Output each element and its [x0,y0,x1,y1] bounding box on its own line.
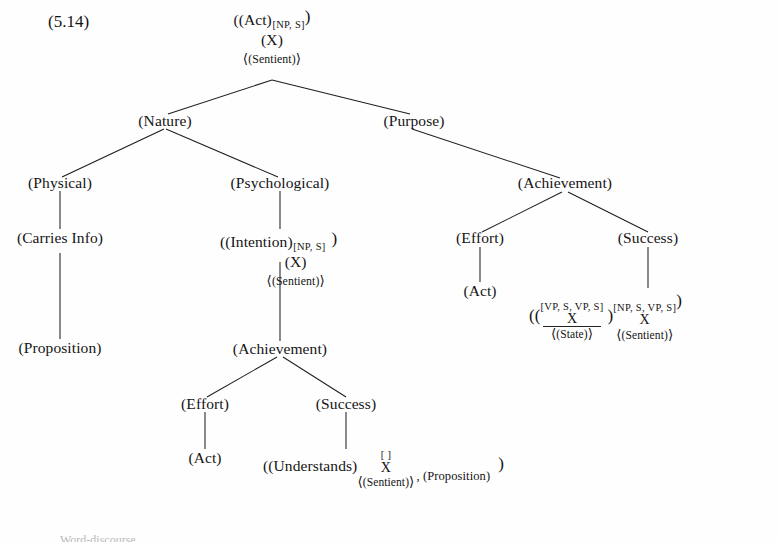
successR-outer-semantic: ⟨(Sentient)⟩ [613,328,676,342]
successR-outer-variable: X [613,313,676,327]
node-effort-mid: (Effort) [181,396,229,412]
node-psychological: (Psychological) [231,175,330,191]
node-achievement-right: (Achievement) [518,175,612,191]
intention-line-3: ⟨(Sentient)⟩ [220,272,337,288]
successR-inner-semantic: ⟨(State)⟩ [541,327,604,341]
edge-root-purpose [272,80,410,114]
root-act-text: ((Act) [233,11,271,28]
root-line-2: (X) [233,32,310,48]
angle-close-icon: ⟩ [668,327,673,342]
root-line-1: ((Act)[NP, S]) [233,8,310,30]
understands-substack: [ ] X ⟨(Sentient)⟩ [357,450,414,489]
understands-close-paren: ) [490,454,504,473]
node-root-act: ((Act)[NP, S]) (X) ⟨(Sentient)⟩ [233,8,310,67]
node-understands: ((Understands) [ ] X ⟨(Sentient)⟩ , (Pro… [263,450,504,489]
root-close-paren: ) [305,7,311,26]
node-purpose: (Purpose) [383,113,444,129]
node-achievement-mid: (Achievement) [233,341,327,357]
intention-line-1: ((Intention)[NP, S]) [220,230,337,252]
understands-semantic: ⟨(Sentient)⟩ [357,475,414,489]
successR-inner-variable: X [543,312,602,327]
successR-state-text: (State) [556,328,587,340]
edge-achievementM-effort [207,357,277,397]
node-success-right: (Success) [618,230,678,246]
successR-inner-stack: [VP, S, VP, S] X ⟨(State)⟩ [541,302,604,341]
node-nature: (Nature) [138,113,191,129]
intention-sentient-text: (Sentient) [272,274,320,288]
example-number: (5.14) [48,12,89,32]
understands-text: ((Understands) [263,457,357,474]
intention-line-2: (X) [220,254,337,270]
edge-purpose-achievement [412,129,560,178]
understands-sentient-text: (Sentient) [363,476,409,488]
node-effort-right: (Effort) [456,230,504,246]
node-act-right: (Act) [463,283,496,299]
node-carries-info: (Carries Info) [17,230,103,246]
edge-achievementR-effort [482,192,562,232]
successR-open-parens: (( [529,306,541,325]
successR-outer-close-paren: ) [676,291,682,310]
intention-close-paren: ) [326,229,338,248]
node-success-mid: (Success) [316,396,376,412]
edge-achievementM-success [283,357,346,397]
successR-mid-close-paren: ) [603,306,613,325]
successR-outer-substack: [NP, S, VP, S] X ⟨(Sentient)⟩ [613,303,676,342]
root-sentient-text: (Sentient) [248,52,296,66]
node-act-mid: (Act) [188,450,221,466]
intention-feature-subscript: [NP, S] [293,241,326,252]
understands-variable: X [357,461,414,475]
node-proposition-left: (Proposition) [18,340,101,356]
understands-second-argument: , (Proposition) [414,469,490,483]
node-success-right-expansion: (( [VP, S, VP, S] X ⟨(State)⟩ ) [NP, S, … [529,292,682,341]
successR-sentient-text: (Sentient) [622,329,668,341]
caption-fragment: Word-discourse... [60,533,360,542]
intention-text: ((Intention) [220,233,293,250]
edge-root-nature [168,80,272,114]
angle-close-icon: ⟩ [296,51,301,66]
edge-achievementR-success [568,192,648,232]
figure-canvas: (5.14) ((Act)[NP, S]) (X) ⟨(Sentient)⟩ (… [0,0,779,542]
root-feature-subscript: [NP, S] [272,19,305,30]
edge-nature-psychological [166,129,278,177]
node-intention: ((Intention)[NP, S]) (X) ⟨(Sentient)⟩ [220,230,337,289]
edge-nature-physical [62,129,164,177]
root-line-3: ⟨(Sentient)⟩ [233,50,310,66]
node-physical: (Physical) [28,175,92,191]
angle-close-icon: ⟩ [588,326,593,341]
angle-close-icon: ⟩ [319,273,324,288]
